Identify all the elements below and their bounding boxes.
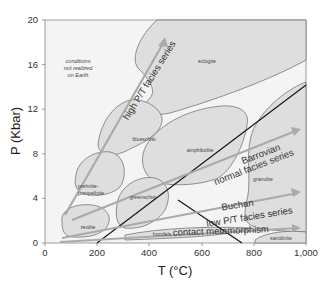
amphibolite-label: amphibolite — [187, 147, 214, 153]
y-tick-0: 0 — [33, 237, 38, 248]
x-tick-600: 600 — [194, 247, 210, 258]
zeolite-label: zeolite — [81, 224, 96, 230]
y-tick-12: 12 — [27, 103, 38, 114]
note-line-1: conditions — [66, 58, 91, 64]
y-tick-16: 16 — [27, 59, 38, 70]
blueschist-label: blueschist — [132, 136, 156, 142]
x-tick-800: 800 — [246, 247, 262, 258]
eclogite-label: eclogite — [198, 58, 216, 64]
x-tick-1000: 1,000 — [294, 247, 318, 258]
facies-diagram: 20 16 12 8 4 0 0 200 400 600 800 1,000 T… — [0, 0, 331, 285]
x-tick-0: 0 — [42, 247, 47, 258]
x-axis-title: T (°C) — [158, 263, 193, 278]
prehnite-label: prehnite- — [78, 183, 99, 189]
hornfels-label: hornfels — [153, 231, 172, 237]
y-tick-4: 4 — [33, 192, 38, 203]
x-tick-200: 200 — [89, 247, 105, 258]
y-axis-title: P (Kbar) — [8, 107, 23, 155]
greenschist-label: greenschist — [130, 194, 157, 200]
y-tick-8: 8 — [33, 148, 38, 159]
x-tick-400: 400 — [141, 247, 157, 258]
sanidinite-label: sanidinite — [270, 235, 292, 241]
granulite-label: granulite — [253, 176, 273, 182]
pumpellyite-label: pumpellyite — [78, 190, 104, 196]
y-tick-20: 20 — [27, 14, 38, 25]
note-line-3: on Earth — [68, 72, 89, 78]
note-line-2: not realized — [64, 65, 93, 71]
